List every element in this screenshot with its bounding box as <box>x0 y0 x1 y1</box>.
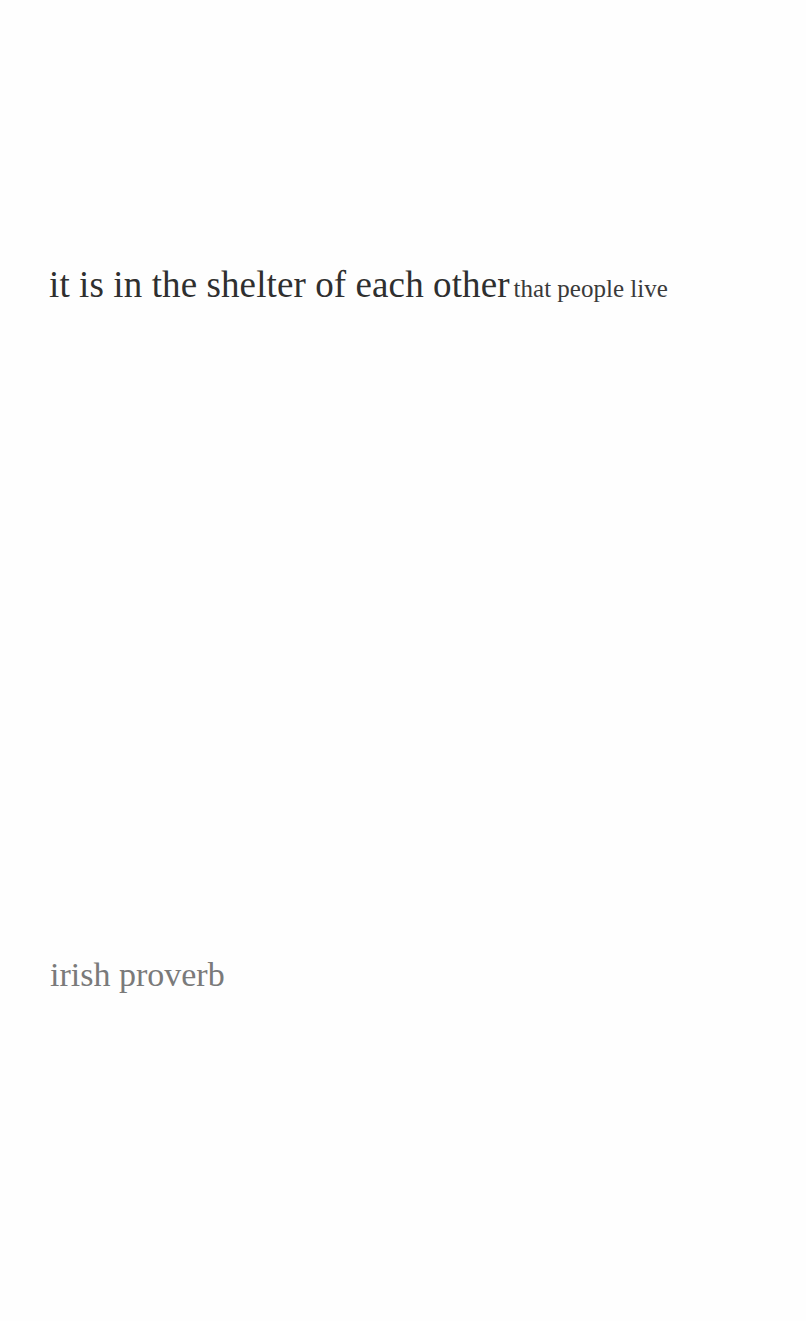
quote-line: it is in the shelter of each other that … <box>49 266 668 303</box>
quote-attribution: irish proverb <box>50 958 225 992</box>
document-page: it is in the shelter of each other that … <box>0 0 806 1321</box>
quote-trailing-text: that people live <box>514 275 668 302</box>
quote-emphasized-text: it is in the shelter of each other <box>49 264 510 305</box>
